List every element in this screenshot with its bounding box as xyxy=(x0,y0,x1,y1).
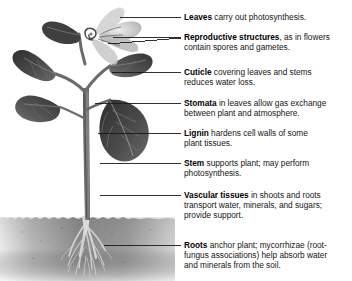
callout-desc-stem: supports plant; may perform xyxy=(204,158,309,168)
callout-cont-reproductive-structures: contain spores and gametes. xyxy=(184,42,352,52)
callout-vascular-tissues: Vascular tissues in shoots and rootstran… xyxy=(184,190,352,221)
callout-cont-stomata: between plant and atmosphere. xyxy=(184,108,352,118)
callout-cont-stem: photosynthesis. xyxy=(184,168,352,178)
callout-term-vascular-tissues: Vascular tissues xyxy=(184,190,249,200)
callout-desc-vascular-tissues: in shoots and roots xyxy=(249,190,321,200)
callout-term-roots: Roots xyxy=(184,240,207,250)
callout-stem: Stem supports plant; may performphotosyn… xyxy=(184,158,352,178)
callout-desc-lignin: hardens cell walls of some xyxy=(209,128,308,138)
plant-photograph xyxy=(0,0,175,281)
callout-term-reproductive-structures: Reproductive structures xyxy=(184,32,279,42)
callout-cont-vascular-tissues: transport water, minerals, and sugars; xyxy=(184,200,352,210)
callout-cuticle: Cuticle covering leaves and stemsreduces… xyxy=(184,67,352,87)
callout-leaves: Leaves carry out photosynthesis. xyxy=(184,12,352,22)
plant-structure-figure: Leaves carry out photosynthesis. Reprodu… xyxy=(0,0,352,281)
callout-term-stem: Stem xyxy=(184,158,204,168)
plant-illustration xyxy=(0,0,175,281)
callout-desc-roots: anchor plant; mycorrhizae (root- xyxy=(207,240,326,250)
callout-term-stomata: Stomata xyxy=(184,98,217,108)
callout-desc-cuticle: covering leaves and stems xyxy=(212,67,312,77)
callout-cont-cuticle: reduces water loss. xyxy=(184,77,352,87)
callout-stomata: Stomata in leaves allow gas exchangebetw… xyxy=(184,98,352,118)
callout-reproductive-structures: Reproductive structures, as in flowersco… xyxy=(184,32,352,52)
callout-desc-reproductive-structures: , as in flowers xyxy=(279,32,329,42)
callout-cont-lignin: plant tissues. xyxy=(184,138,352,148)
callout-lignin: Lignin hardens cell walls of someplant t… xyxy=(184,128,352,148)
callout-roots: Roots anchor plant; mycorrhizae (root-fu… xyxy=(184,240,352,271)
callout-term-lignin: Lignin xyxy=(184,128,209,138)
callout-desc-leaves: carry out photosynthesis. xyxy=(212,12,306,22)
callout-cont-roots: fungus associations) help absorb water xyxy=(184,250,352,260)
callout-cont2-roots: and minerals from the soil. xyxy=(184,260,352,270)
flower-center xyxy=(90,33,93,36)
callout-desc-stomata: in leaves allow gas exchange xyxy=(217,98,327,108)
callout-term-cuticle: Cuticle xyxy=(184,67,212,77)
callout-cont2-vascular-tissues: provide support. xyxy=(184,210,352,220)
callout-term-leaves: Leaves xyxy=(184,12,212,22)
